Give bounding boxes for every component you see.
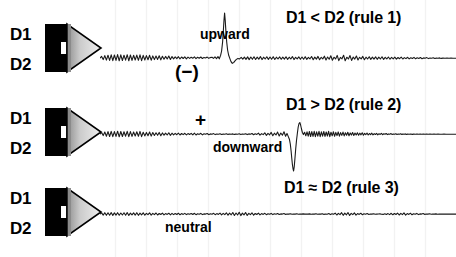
montage-row-rule-1: D1 D2 upward — [0, 0, 456, 92]
deflection-annotation-rule-2: downward — [213, 140, 282, 154]
channel-label-d2: D2 — [10, 140, 31, 157]
eeg-trace-rule-3 — [100, 194, 456, 234]
channel-label-d1: D1 — [10, 190, 31, 207]
rule-label-rule-3: D1 ≈ D2 (rule 3) — [284, 179, 399, 197]
differential-amplifier-icon — [43, 106, 105, 158]
deflection-annotation-rule-3: neutral — [165, 220, 212, 234]
differential-amplifier-icon — [43, 186, 105, 238]
rule-label-rule-2: D1 > D2 (rule 2) — [286, 96, 401, 114]
montage-row-rule-3: D1 D2 neutral D1 ≈ D2 (rule — [0, 180, 456, 257]
channel-label-d1: D1 — [10, 110, 31, 127]
polarity-annotation-rule-2: + — [195, 110, 206, 129]
eeg-trace-rule-2 — [100, 92, 456, 178]
polarity-annotation-rule-1: (−) — [175, 62, 199, 81]
figure-root: D1 D2 upward — [0, 0, 456, 257]
deflection-annotation-rule-1: upward — [200, 27, 250, 41]
channel-label-d2: D2 — [10, 56, 31, 73]
montage-row-rule-2: D1 D2 downward + D1 > D — [0, 92, 456, 180]
differential-amplifier-icon — [43, 22, 105, 74]
eeg-trace-rule-1 — [100, 4, 456, 88]
channel-label-d2: D2 — [10, 220, 31, 237]
channel-label-d1: D1 — [10, 26, 31, 43]
rule-label-rule-1: D1 < D2 (rule 1) — [286, 9, 401, 27]
